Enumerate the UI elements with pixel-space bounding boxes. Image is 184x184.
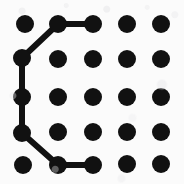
grid-dot-r3c3[interactable] (84, 88, 102, 106)
grid-dot-r2c4[interactable] (118, 50, 136, 68)
grid-dot-r4c2[interactable] (49, 123, 67, 141)
grid-dot-r1c5[interactable] (152, 15, 170, 33)
grid-dot-r3c4[interactable] (118, 88, 136, 106)
grid-dot-r1c1[interactable] (16, 15, 34, 33)
dot-grid-figure (0, 0, 184, 184)
grid-dot-r1c4[interactable] (118, 15, 136, 33)
grid-dot-r2c3[interactable] (84, 50, 102, 68)
grid-dot-r5c3[interactable] (84, 156, 102, 174)
grid-dot-r5c5[interactable] (152, 155, 170, 173)
grid-dot-r3c5[interactable] (152, 88, 170, 106)
pattern-canvas[interactable] (0, 0, 184, 184)
grid-dot-r5c4[interactable] (118, 155, 136, 173)
grid-dot-r2c1[interactable] (13, 49, 31, 67)
grid-dot-r4c1[interactable] (13, 124, 31, 142)
grid-dot-r3c2[interactable] (49, 88, 67, 106)
grid-dot-r4c3[interactable] (84, 123, 102, 141)
grid-dot-r2c2[interactable] (49, 50, 67, 68)
grid-dot-r2c5[interactable] (152, 50, 170, 68)
grid-dot-r1c2[interactable] (49, 15, 67, 33)
grid-dot-r3c1[interactable] (13, 88, 31, 106)
grid-dot-r4c4[interactable] (118, 123, 136, 141)
grid-dot-r5c1[interactable] (14, 156, 32, 174)
grid-dot-r1c3[interactable] (84, 15, 102, 33)
grid-dot-r4c5[interactable] (152, 123, 170, 141)
grid-dot-r5c2[interactable] (49, 156, 67, 174)
